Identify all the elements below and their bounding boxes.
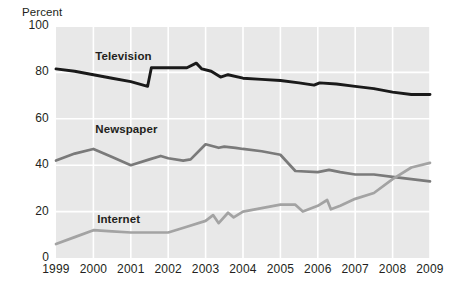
y-tick-label: 80 [9,64,49,78]
x-tick-label: 2009 [407,262,453,276]
series-label-television: Television [95,50,151,62]
series-label-internet: Internet [97,213,140,225]
chart-plot-area [0,0,456,297]
y-tick-label: 100 [9,18,49,32]
y-tick-label: 40 [9,157,49,171]
y-tick-label: 60 [9,111,49,125]
y-tick-label: 20 [9,204,49,218]
series-label-newspaper: Newspaper [95,123,157,135]
line-chart: Percent 020406080100 1999200020012002200… [0,0,456,297]
